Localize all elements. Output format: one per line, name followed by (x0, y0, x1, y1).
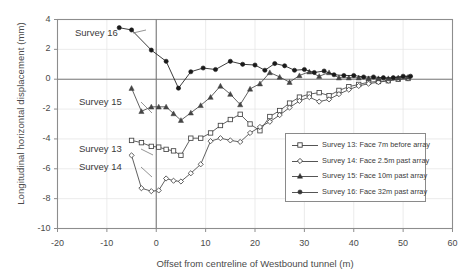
marker-filled-circle (263, 68, 267, 72)
marker-filled-circle (408, 74, 412, 78)
marker-filled-circle (298, 189, 302, 193)
marker-filled-circle (302, 67, 306, 71)
marker-open-square (149, 144, 153, 148)
marker-open-diamond (139, 186, 144, 191)
marker-filled-circle (241, 62, 245, 66)
marker-open-square (298, 143, 302, 147)
marker-filled-triangle (247, 86, 252, 91)
legend-symbol (292, 187, 318, 197)
chart-root: Longitudinal horizontal displacement (mm… (0, 0, 476, 276)
marker-open-diamond (208, 139, 213, 144)
marker-open-square (238, 112, 242, 116)
marker-filled-circle (362, 75, 366, 79)
marker-filled-circle (332, 73, 336, 77)
marker-open-diamond (149, 189, 154, 194)
annotation-leader-line (141, 149, 153, 155)
marker-filled-triangle (287, 80, 292, 85)
annotation-leader-line (133, 30, 146, 33)
legend-label: Survey 13: Face 7m before array (322, 140, 430, 149)
legend-symbol (292, 140, 318, 150)
marker-open-square (157, 145, 161, 149)
marker-filled-circle (283, 64, 287, 68)
marker-filled-circle (292, 68, 296, 72)
marker-filled-triangle (129, 86, 134, 91)
marker-filled-triangle (277, 74, 282, 79)
marker-open-diamond (218, 136, 223, 141)
marker-open-square (129, 138, 133, 142)
marker-open-square (171, 149, 175, 153)
marker-filled-circle (312, 70, 316, 74)
marker-filled-circle (401, 74, 405, 78)
marker-open-diamond (164, 176, 169, 181)
annotation-survey-16: Survey 16 (75, 27, 118, 38)
marker-filled-triangle (267, 70, 272, 75)
legend: Survey 13: Face 7m before arraySurvey 14… (285, 133, 426, 202)
marker-filled-circle (381, 76, 385, 80)
legend-label: Survey 14: Face 2.5m past array (322, 156, 429, 165)
marker-open-square (228, 117, 232, 121)
marker-open-diamond (267, 119, 272, 124)
marker-open-square (139, 140, 143, 144)
marker-open-diamond (129, 153, 134, 158)
annotation-survey-14: Survey 14 (79, 161, 122, 172)
marker-filled-triangle (218, 83, 223, 88)
marker-filled-triangle (297, 73, 302, 78)
marker-open-square (218, 123, 222, 127)
marker-filled-circle (322, 69, 326, 73)
marker-open-diamond (297, 158, 302, 163)
marker-filled-circle (228, 59, 232, 63)
marker-filled-triangle (297, 173, 302, 178)
marker-filled-circle (391, 76, 395, 80)
marker-filled-circle (213, 67, 217, 71)
marker-filled-triangle (317, 74, 322, 79)
legend-symbol (292, 171, 318, 181)
marker-filled-circle (164, 59, 168, 63)
annotation-survey-13: Survey 13 (79, 143, 122, 154)
legend-label: Survey 15: Face 10m past array (322, 171, 427, 180)
marker-filled-circle (352, 73, 356, 77)
marker-open-square (198, 136, 202, 140)
marker-filled-circle (176, 86, 180, 90)
marker-filled-circle (342, 73, 346, 77)
marker-open-diamond (156, 188, 161, 193)
annotation-survey-15: Survey 15 (79, 96, 122, 107)
marker-open-square (317, 90, 321, 94)
marker-filled-circle (149, 48, 153, 52)
marker-open-square (179, 153, 183, 157)
marker-filled-circle (129, 28, 133, 32)
marker-filled-circle (273, 61, 277, 65)
marker-filled-circle (189, 70, 193, 74)
marker-open-square (189, 136, 193, 140)
marker-open-diamond (171, 178, 176, 183)
marker-filled-circle (253, 63, 257, 67)
marker-filled-circle (201, 66, 205, 70)
marker-open-square (208, 131, 212, 135)
marker-open-square (248, 122, 252, 126)
marker-open-square (164, 147, 168, 151)
legend-symbol (292, 156, 318, 166)
marker-open-diamond (317, 99, 322, 104)
marker-open-square (268, 114, 272, 118)
marker-filled-circle (371, 75, 375, 79)
legend-label: Survey 16: Face 32m past array (322, 187, 427, 196)
